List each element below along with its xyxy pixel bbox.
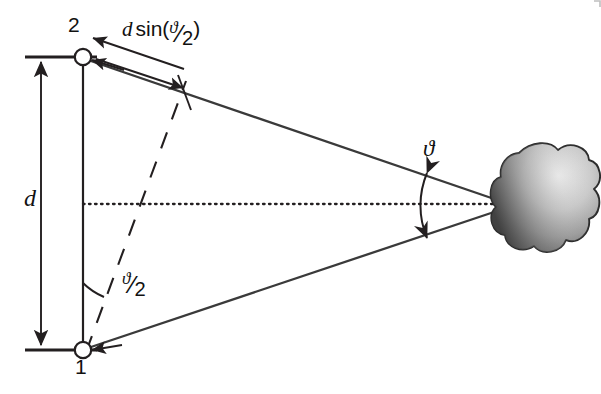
apex-angle-arc xyxy=(420,173,427,238)
antenna-label-2: 2 xyxy=(68,13,80,37)
theta-symbol-top: ϑ xyxy=(169,18,177,38)
apex-angle-label: ϑ xyxy=(423,136,434,162)
theta-over-two-bottom: ϑ⁄2 xyxy=(122,271,146,299)
fraction-denominator-top: 2 xyxy=(182,27,193,50)
half-angle-label: ϑ⁄2 xyxy=(122,268,146,299)
theta-over-two-top: ϑ⁄2 xyxy=(169,20,193,48)
antenna-label-1: 1 xyxy=(75,355,87,379)
antenna-marker-2 xyxy=(75,49,91,65)
path-difference-paren-close: ) xyxy=(193,17,200,40)
wavefront-dashed-line xyxy=(86,81,186,352)
path-difference-label: dsin(ϑ⁄2) xyxy=(122,17,200,48)
path-difference-d: d xyxy=(122,17,136,41)
scan-artifact-corner xyxy=(594,1,600,7)
interferometer-diagram xyxy=(0,0,601,394)
baseline-label-d: d xyxy=(24,185,36,212)
theta-symbol-half: ϑ xyxy=(122,269,130,289)
cloud-source xyxy=(491,143,600,252)
antenna-2-incoming-arrow xyxy=(92,60,124,70)
fraction-denominator-bottom: 2 xyxy=(135,278,146,301)
ray-from-antenna-1 xyxy=(88,208,506,348)
ray-from-antenna-2 xyxy=(88,60,506,203)
half-angle-arc xyxy=(83,283,104,297)
path-difference-sin: sin( xyxy=(136,17,170,40)
